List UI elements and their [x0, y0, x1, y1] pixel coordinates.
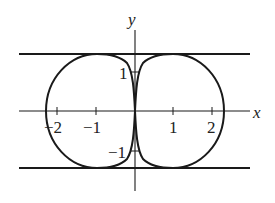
y-tick-label-neg1: −1: [108, 143, 126, 162]
x-axis-label: x: [252, 103, 261, 122]
x-tick-label-neg1: −1: [83, 118, 101, 137]
y-axis-label: y: [126, 10, 136, 29]
x-tick-label-2: 2: [207, 118, 216, 137]
x-tick-label-1: 1: [169, 118, 178, 137]
x-tick-label-neg2: −2: [44, 118, 62, 137]
y-tick-label-1: 1: [119, 64, 128, 83]
plot: y x −2 −1 1 2 1 −1: [0, 0, 275, 203]
